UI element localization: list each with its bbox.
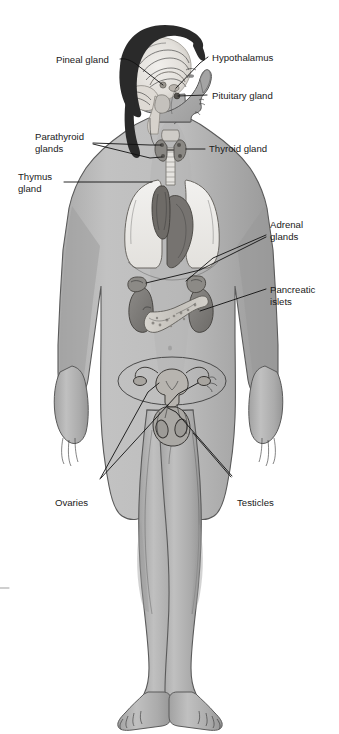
anatomy-illustration: Pineal gland Hypothalamus Pituitary glan… <box>0 0 339 734</box>
label-parathyroid-glands-line2: glands <box>35 143 63 154</box>
parathyroid-gland-lower-right <box>178 154 182 158</box>
label-testicles: Testicles <box>237 497 274 508</box>
parathyroid-gland-upper-right <box>177 143 181 147</box>
ear <box>155 95 170 113</box>
label-ovaries: Ovaries <box>55 497 88 508</box>
label-hypothalamus: Hypothalamus <box>212 52 274 63</box>
navel <box>168 345 172 350</box>
label-thymus-gland-line1: Thymus <box>18 171 52 182</box>
left-ovary <box>134 377 147 386</box>
endocrine-system-figure: Pineal gland Hypothalamus Pituitary glan… <box>0 0 339 734</box>
label-pituitary-gland: Pituitary gland <box>212 90 273 101</box>
label-adrenal-glands-line2: glands <box>270 231 298 242</box>
larynx <box>162 130 180 141</box>
label-thymus-gland-line2: gland <box>18 183 41 194</box>
hypothalamus <box>169 85 179 92</box>
label-thyroid-gland: Thyroid gland <box>209 143 267 154</box>
label-pancreatic-islets-line2: islets <box>270 296 292 307</box>
label-adrenal-glands-line1: Adrenal <box>270 219 303 230</box>
label-pancreatic-islets-line1: Pancreatic <box>270 284 316 295</box>
label-pineal-gland: Pineal gland <box>56 54 109 65</box>
label-parathyroid-glands-line1: Parathyroid <box>35 131 84 142</box>
